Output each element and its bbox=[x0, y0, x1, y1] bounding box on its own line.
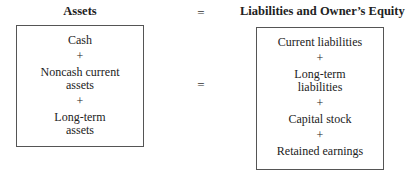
plus-sign: + bbox=[257, 97, 383, 110]
plus-sign: + bbox=[17, 95, 143, 108]
long-term-assets-item: Long-term assets bbox=[17, 111, 143, 137]
capital-stock-item: Capital stock bbox=[257, 113, 383, 126]
long-term-liabilities-item: Long-term liabilities bbox=[257, 68, 383, 94]
plus-sign: + bbox=[257, 52, 383, 65]
equals-sign-top: = bbox=[194, 5, 208, 21]
retained-earnings-item: Retained earnings bbox=[257, 145, 383, 158]
plus-sign: + bbox=[257, 129, 383, 142]
current-liabilities-item: Current liabilities bbox=[257, 36, 383, 49]
liabilities-equity-box: Current liabilities + Long-term liabilit… bbox=[256, 27, 384, 170]
assets-heading: Assets bbox=[16, 4, 144, 19]
noncash-current-assets-item: Noncash current assets bbox=[17, 66, 143, 92]
assets-box: Cash + Noncash current assets + Long-ter… bbox=[16, 25, 144, 147]
plus-sign: + bbox=[17, 50, 143, 63]
equals-sign-middle: = bbox=[194, 77, 208, 93]
cash-item: Cash bbox=[17, 34, 143, 47]
liabilities-equity-heading: Liabilities and Owner’s Equity bbox=[240, 4, 400, 19]
